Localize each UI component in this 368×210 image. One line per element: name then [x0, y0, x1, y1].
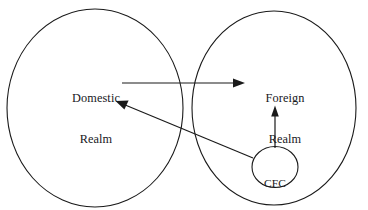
cfc-realm-label: CFC Realm: [248, 151, 302, 210]
foreign-realm-label-line-2: Realm: [247, 133, 323, 147]
domestic-realm-label-line-1: Domestic: [46, 92, 146, 106]
foreign-realm-label-line-1: Foreign: [247, 92, 323, 106]
domestic-realm-label: Domestic Realm: [46, 64, 146, 174]
cfc-realm-label-line-1: CFC: [248, 177, 302, 190]
arrow-domestic-to-foreign-head: [233, 79, 245, 88]
diagram-canvas: Domestic Realm Foreign Realm CFC Realm: [0, 0, 368, 210]
domestic-realm-label-line-2: Realm: [46, 133, 146, 147]
